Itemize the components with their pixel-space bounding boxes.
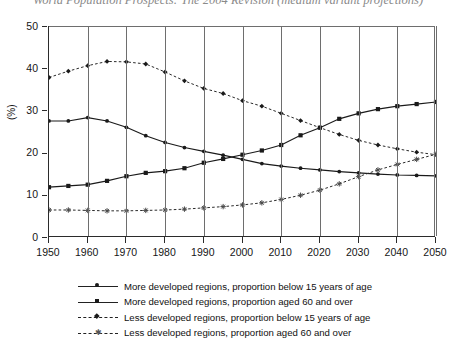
chart-title-clipped: World Population Prospects: The 2004 Rev… bbox=[0, 0, 456, 9]
gridline-vertical bbox=[88, 26, 89, 236]
data-point bbox=[49, 119, 51, 123]
y-tick-label: 20 bbox=[10, 147, 38, 157]
data-point bbox=[375, 167, 380, 172]
data-point bbox=[182, 78, 187, 83]
x-tick-mark bbox=[164, 237, 165, 243]
data-point bbox=[143, 62, 148, 67]
gridline-vertical bbox=[281, 26, 282, 236]
data-point bbox=[298, 133, 302, 137]
x-tick-mark bbox=[242, 237, 243, 243]
x-tick-mark bbox=[48, 237, 49, 243]
data-point bbox=[259, 104, 264, 109]
x-tick-mark bbox=[125, 237, 126, 243]
data-point bbox=[298, 193, 303, 198]
data-point bbox=[337, 181, 342, 186]
y-tick-label: 50 bbox=[10, 21, 38, 31]
chart-figure: World Population Prospects: The 2004 Rev… bbox=[0, 0, 456, 348]
y-tick-mark bbox=[42, 153, 47, 154]
gridline-vertical bbox=[436, 26, 437, 236]
legend-marker-star-icon: ✱ bbox=[95, 330, 101, 336]
data-point bbox=[183, 146, 187, 150]
y-tick-mark bbox=[42, 68, 47, 69]
y-tick-label: 10 bbox=[10, 189, 38, 199]
data-point bbox=[298, 118, 303, 123]
square-icon bbox=[95, 299, 99, 303]
x-tick-mark bbox=[280, 237, 281, 243]
y-tick-mark bbox=[42, 110, 47, 111]
legend-label: Less developed regions, proportion below… bbox=[124, 312, 370, 324]
legend-key bbox=[78, 311, 118, 325]
x-tick-label: 2050 bbox=[412, 246, 456, 258]
legend-marker-dot-icon bbox=[95, 283, 99, 287]
data-point bbox=[49, 75, 51, 80]
x-tick-mark bbox=[203, 237, 204, 243]
x-tick-mark bbox=[396, 237, 397, 243]
gridline-vertical bbox=[320, 26, 321, 236]
data-point bbox=[66, 207, 71, 212]
data-point bbox=[337, 170, 341, 174]
y-tick-label: 40 bbox=[10, 63, 38, 73]
x-tick-mark bbox=[87, 237, 88, 243]
dot-icon bbox=[95, 283, 99, 287]
gridline-vertical bbox=[397, 26, 398, 236]
legend-label: More developed regions, proportion below… bbox=[124, 281, 372, 293]
legend-label: Less developed regions, proportion aged … bbox=[124, 327, 351, 339]
plot-right-border bbox=[434, 26, 435, 236]
legend-item[interactable]: More developed regions, proportion aged … bbox=[78, 295, 408, 311]
data-point bbox=[376, 107, 380, 111]
data-point bbox=[66, 119, 70, 123]
data-point bbox=[144, 171, 148, 175]
data-point bbox=[376, 143, 381, 148]
data-point bbox=[143, 208, 148, 213]
data-point bbox=[182, 166, 186, 170]
y-axis-ticks: 01020304050 bbox=[0, 0, 44, 348]
plot-area bbox=[48, 26, 435, 237]
data-point bbox=[105, 119, 109, 123]
data-point bbox=[337, 132, 342, 137]
y-tick-mark bbox=[42, 195, 47, 196]
data-point bbox=[221, 153, 225, 157]
legend-label: More developed regions, proportion aged … bbox=[124, 296, 353, 308]
data-point bbox=[105, 59, 110, 64]
data-point bbox=[414, 150, 419, 155]
chart-legend: More developed regions, proportion below… bbox=[78, 279, 408, 341]
data-point bbox=[49, 185, 51, 189]
data-point bbox=[299, 166, 303, 170]
gridline-vertical bbox=[204, 26, 205, 236]
data-point bbox=[260, 162, 264, 166]
data-point bbox=[220, 204, 225, 209]
legend-key bbox=[78, 295, 118, 309]
data-point bbox=[415, 102, 419, 106]
chart-title-text: World Population Prospects: The 2004 Rev… bbox=[0, 0, 456, 9]
legend-item[interactable]: More developed regions, proportion below… bbox=[78, 279, 408, 295]
data-point bbox=[66, 184, 70, 188]
data-point bbox=[105, 179, 109, 183]
x-tick-mark bbox=[319, 237, 320, 243]
data-point bbox=[260, 148, 264, 152]
data-point bbox=[49, 207, 52, 212]
data-point bbox=[414, 157, 419, 162]
x-tick-mark bbox=[435, 237, 436, 243]
legend-key: ✱ bbox=[78, 326, 118, 340]
legend-marker-square-icon bbox=[95, 299, 99, 303]
gridline-vertical bbox=[165, 26, 166, 236]
data-point bbox=[144, 134, 148, 138]
data-point bbox=[221, 91, 226, 96]
x-tick-mark bbox=[358, 237, 359, 243]
diamond-icon bbox=[94, 314, 99, 319]
gridline-vertical bbox=[243, 26, 244, 236]
data-point bbox=[221, 157, 225, 161]
data-point bbox=[337, 117, 341, 121]
legend-item[interactable]: Less developed regions, proportion below… bbox=[78, 310, 408, 326]
gridline-vertical bbox=[126, 26, 127, 236]
legend-item[interactable]: ✱Less developed regions, proportion aged… bbox=[78, 326, 408, 342]
y-tick-label: 30 bbox=[10, 105, 38, 115]
y-tick-mark bbox=[42, 26, 47, 27]
data-point bbox=[182, 206, 187, 211]
star-icon: ✱ bbox=[95, 330, 101, 336]
gridline-vertical bbox=[359, 26, 360, 236]
data-point bbox=[259, 200, 264, 205]
legend-marker-diamond-icon bbox=[95, 314, 99, 318]
data-point bbox=[376, 172, 380, 176]
data-point bbox=[415, 173, 419, 177]
